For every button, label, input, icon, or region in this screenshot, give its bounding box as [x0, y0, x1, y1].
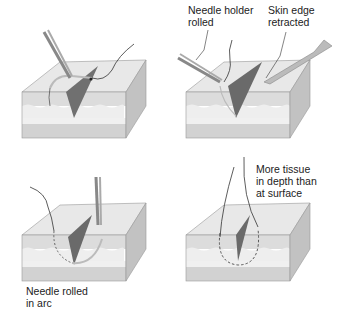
skin-block-illustration: [0, 0, 173, 157]
needle-holder-rolled-label: Needle holder rolled: [188, 4, 253, 28]
needle-rolled-in-arc-label: Needle rolled in arc: [26, 285, 88, 309]
panel-needle-insertion: [0, 0, 173, 157]
skin-edge-retracted-label: Skin edge retracted: [268, 4, 315, 28]
more-tissue-label: More tissue in depth than at surface: [256, 163, 317, 199]
panel-needle-rolled-in-arc: Needle rolled in arc: [0, 157, 173, 314]
panel-needle-holder-rolled: Needle holder rolled Skin edge retracted: [174, 0, 347, 157]
panel-more-tissue-in-depth: More tissue in depth than at surface: [174, 157, 347, 314]
